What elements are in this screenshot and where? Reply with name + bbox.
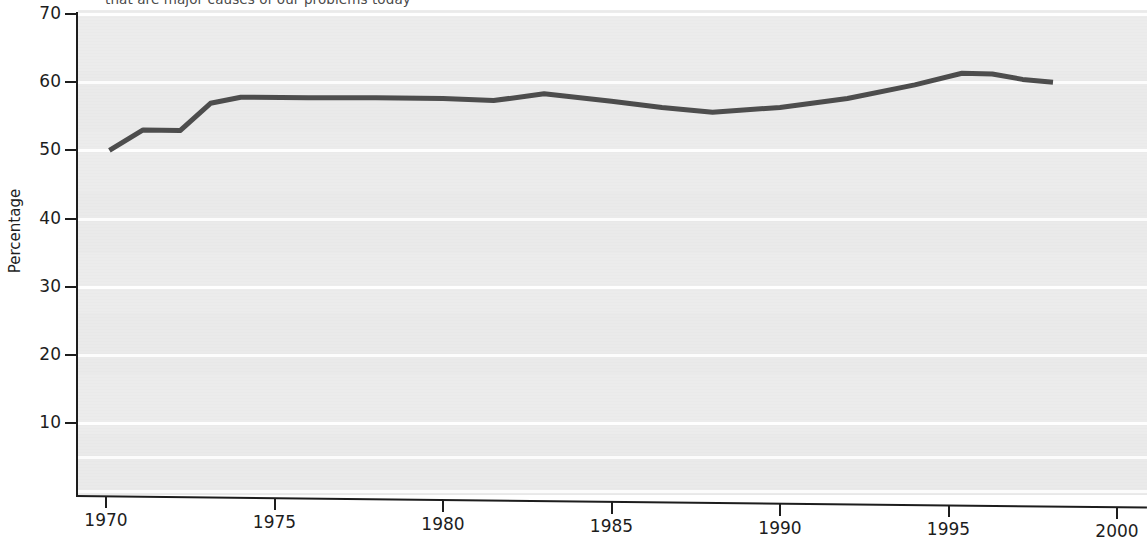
y-tick	[65, 422, 76, 424]
x-tick	[274, 498, 276, 510]
x-tick	[611, 502, 613, 514]
y-tick	[65, 354, 76, 356]
x-tick-label: 1970	[74, 510, 138, 530]
chart-title: that are major causes of our problems to…	[105, 0, 411, 7]
y-tick	[65, 13, 76, 15]
background-band	[78, 253, 1147, 314]
x-tick-label: 1985	[580, 516, 644, 536]
chart-figure: that are major causes of our problems to…	[0, 0, 1147, 548]
x-tick	[442, 500, 444, 512]
x-tick-label: 2000	[1085, 521, 1147, 541]
background-band	[78, 131, 1147, 192]
background-band	[78, 71, 1147, 132]
x-tick	[779, 504, 781, 516]
y-tick	[65, 81, 76, 83]
x-tick-label: 1995	[917, 519, 981, 539]
x-tick	[105, 496, 107, 508]
y-axis-line	[76, 12, 78, 496]
background-band	[78, 434, 1147, 495]
background-band	[78, 10, 1147, 71]
background-band	[78, 374, 1147, 435]
x-tick	[948, 505, 950, 517]
background-band	[78, 192, 1147, 253]
y-tick-label: 10	[1, 412, 61, 432]
x-tick	[1116, 507, 1118, 519]
y-tick	[65, 218, 76, 220]
y-tick-label: 50	[1, 139, 61, 159]
y-tick	[65, 149, 76, 151]
y-tick-label: 20	[1, 344, 61, 364]
y-tick-label: 70	[1, 3, 61, 23]
plot-area	[78, 10, 1147, 495]
background-band	[78, 313, 1147, 374]
y-tick	[65, 286, 76, 288]
y-axis-label: Percentage	[6, 176, 24, 286]
x-tick-label: 1990	[748, 518, 812, 538]
x-tick-label: 1975	[243, 512, 307, 532]
x-tick-label: 1980	[411, 514, 475, 534]
y-tick-label: 60	[1, 71, 61, 91]
